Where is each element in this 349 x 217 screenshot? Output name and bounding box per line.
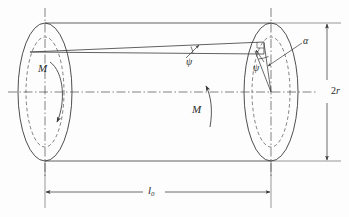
twist-angle-label: α (303, 36, 308, 46)
radius-symbol: r (336, 85, 340, 96)
length-subscript: 0 (151, 190, 154, 197)
twist-angle-group (255, 43, 302, 92)
center-axes (8, 8, 318, 178)
moment-label-left: M (38, 63, 47, 74)
alpha-angle-arc (259, 57, 269, 60)
surface-angle-label: ψ (253, 63, 259, 73)
torsion-shaft-diagram: M M ψ ψ α 2r l0 (0, 0, 349, 217)
helix-angle-label: ψ (186, 57, 192, 67)
right-angle-marker-icon (257, 42, 264, 48)
twisted-radius-line (264, 43, 271, 92)
diagram-canvas (0, 0, 349, 217)
alpha-leader-arrow (268, 43, 302, 66)
diameter-label: 2r (331, 86, 340, 96)
axial-generator-line (30, 52, 264, 54)
moment-label-right: M (192, 104, 201, 115)
helix-wedge-group (30, 42, 264, 54)
length-label: l0 (148, 185, 154, 197)
